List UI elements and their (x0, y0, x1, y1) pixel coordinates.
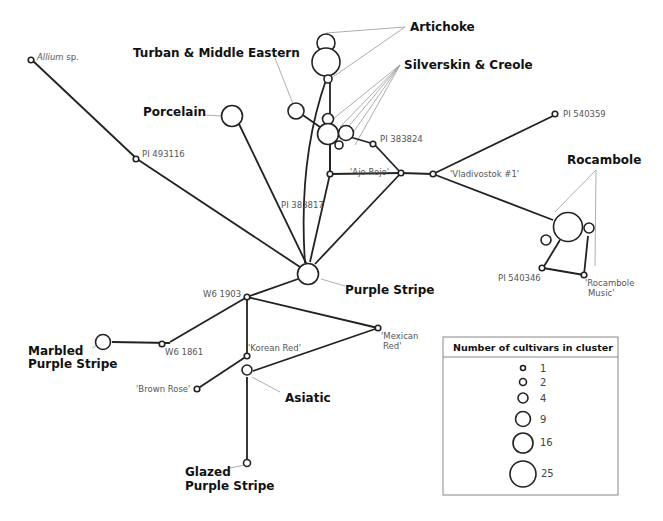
node-artichoke-tiny[interactable] (324, 75, 332, 83)
node-glazed[interactable] (244, 460, 251, 467)
node-vladivostok[interactable] (430, 171, 436, 177)
label-w6-1903: W6 1903 (203, 289, 241, 299)
label-pi383824: PI 383824 (380, 134, 423, 144)
label-mexican-red-2: Red' (383, 341, 402, 351)
label-pi540346: PI 540346 (498, 273, 541, 283)
legend-value-16: 16 (540, 437, 553, 448)
label-silverskin: Silverskin & Creole (404, 58, 533, 72)
node-ajo-rojo[interactable] (398, 170, 404, 176)
label-rocambole-music-2: Music' (588, 288, 615, 298)
label-marbled-2: Purple Stripe (28, 357, 117, 371)
node-silverskin-right[interactable] (339, 126, 354, 141)
legend-value-9: 9 (540, 414, 546, 425)
label-pi540359: PI 540359 (563, 109, 606, 119)
label-rocambole: Rocambole (567, 153, 641, 167)
node-porcelain[interactable] (222, 106, 243, 127)
legend: Number of cultivars in cluster 1 2 4 9 1… (443, 337, 618, 495)
node-rocambole-main[interactable] (554, 213, 583, 242)
node-purple-stripe[interactable] (298, 264, 319, 285)
node-mexican-red[interactable] (375, 325, 381, 331)
label-glazed-1: Glazed (185, 465, 231, 479)
label-mexican-red-1: 'Mexican (381, 331, 418, 341)
node-pi493116[interactable] (133, 156, 139, 162)
label-asiatic: Asiatic (285, 391, 331, 405)
node-pi540346[interactable] (539, 265, 545, 271)
legend-circle-2 (520, 379, 527, 386)
label-allium: Allium sp. (36, 52, 79, 62)
label-pi493116: PI 493116 (142, 149, 185, 159)
label-marbled-1: Marbled (28, 344, 83, 358)
node-rocambole-right[interactable] (584, 223, 594, 233)
node-rocambole-music[interactable] (581, 272, 587, 278)
label-brown-rose: 'Brown Rose' (136, 384, 190, 394)
legend-circle-1 (521, 366, 526, 371)
node-silverskin-main[interactable] (318, 124, 339, 145)
label-w6-1861: W6 1861 (165, 347, 203, 357)
node-brown-rose[interactable] (194, 386, 200, 392)
label-ajo-rojo: 'Ajo Rojo' (350, 167, 389, 177)
label-korean-red: 'Korean Red' (248, 343, 301, 353)
node-pi540359[interactable] (552, 111, 558, 117)
node-w6-1903[interactable] (244, 294, 250, 300)
node-marbled[interactable] (96, 335, 111, 350)
legend-value-25: 25 (541, 468, 554, 479)
node-pi383817[interactable] (327, 171, 333, 177)
legend-value-4: 4 (540, 393, 546, 404)
legend-circle-25 (510, 461, 536, 487)
legend-value-2: 2 (540, 377, 546, 388)
legend-title: Number of cultivars in cluster (453, 342, 613, 353)
label-pi383817: PI 383817 (281, 200, 324, 210)
label-vladivostok: 'Vladivostok #1' (450, 169, 519, 179)
label-rocambole-music-1: 'Rocambole (585, 278, 634, 288)
legend-circle-16 (513, 433, 533, 453)
label-artichoke: Artichoke (410, 20, 475, 34)
label-turban: Turban & Middle Eastern (133, 46, 300, 60)
node-silverskin-small[interactable] (335, 141, 343, 149)
node-pi383824[interactable] (370, 141, 376, 147)
node-allium[interactable] (28, 57, 34, 63)
label-purple-stripe: Purple Stripe (345, 283, 434, 297)
legend-circle-4 (518, 393, 528, 403)
legend-value-1: 1 (540, 363, 546, 374)
label-glazed-2: Purple Stripe (185, 479, 274, 493)
label-porcelain: Porcelain (143, 105, 206, 119)
node-turban[interactable] (288, 103, 304, 119)
network-diagram: Artichoke Turban & Middle Eastern Silver… (0, 0, 663, 521)
node-artichoke-large[interactable] (312, 48, 340, 76)
node-korean-red[interactable] (244, 353, 250, 359)
node-rocambole-left[interactable] (541, 235, 551, 245)
node-w6-1861[interactable] (159, 341, 165, 347)
node-asiatic[interactable] (242, 365, 252, 375)
legend-circle-9 (516, 412, 531, 427)
